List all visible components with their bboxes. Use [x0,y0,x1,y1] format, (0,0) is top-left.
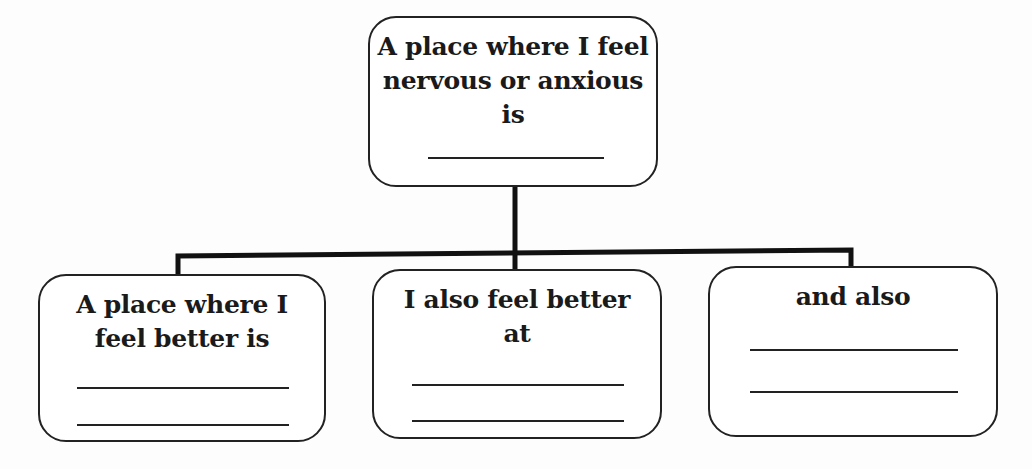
blank-line[interactable] [77,424,289,426]
blank-line[interactable] [750,391,958,393]
child-label: I also feel better at [374,283,660,351]
root-box: A place where I feel nervous or anxious … [368,16,658,187]
blank-line[interactable] [412,420,624,422]
root-label: A place where I feel nervous or anxious … [370,30,656,132]
blank-line[interactable] [77,387,289,389]
blank-line[interactable] [412,384,624,386]
child-box-also-better: I also feel better at [372,269,662,439]
blank-line[interactable] [428,157,604,159]
child-box-feel-better: A place where I feel better is [38,274,326,442]
child-label: and also [710,280,996,314]
child-box-and-also: and also [708,266,998,437]
child-label: A place where I feel better is [40,288,324,356]
blank-line[interactable] [750,349,958,351]
